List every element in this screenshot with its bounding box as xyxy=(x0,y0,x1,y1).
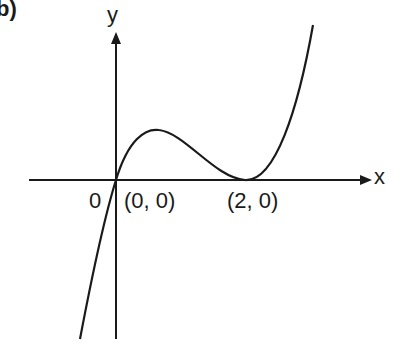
point-label-origin: (0, 0) xyxy=(124,190,175,212)
origin-label: 0 xyxy=(89,190,101,212)
x-axis-label: x xyxy=(374,166,385,188)
graph-canvas xyxy=(0,0,404,347)
point-label-two-zero: (2, 0) xyxy=(227,190,278,212)
cubic-curve xyxy=(80,25,313,339)
y-axis-label: y xyxy=(107,4,118,26)
